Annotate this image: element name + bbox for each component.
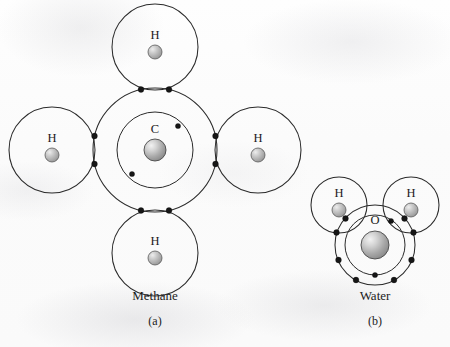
methane-caption-title: Methane — [132, 288, 178, 303]
hydrogen-top-nucleus — [148, 45, 162, 59]
oxygen-bonding-electron-left — [334, 230, 340, 236]
oxygen-inner-electron — [388, 218, 393, 223]
methane-molecule-group: C H H H H — [9, 4, 301, 328]
water-hydrogen-left-nucleus — [332, 203, 346, 217]
water-hydrogen-right-nucleus — [404, 203, 418, 217]
water-caption-title: Water — [360, 288, 391, 303]
oxygen-bonding-electron-right — [402, 216, 408, 222]
molecule-diagram-svg: C H H H H — [0, 0, 450, 347]
hydrogen-left-nucleus — [45, 148, 59, 162]
carbon-inner-electron — [129, 171, 134, 176]
oxygen-lone-pair-electron — [409, 257, 415, 263]
hydrogen-right-label: H — [253, 131, 262, 145]
oxygen-nucleus — [361, 231, 389, 259]
water-hydrogen-left-label: H — [334, 186, 343, 200]
hydrogen-bottom-nucleus — [148, 251, 162, 265]
oxygen-lone-pair-electron — [336, 257, 342, 263]
oxygen-bonding-electron-right — [411, 230, 417, 236]
figure-root: C H H H H — [0, 0, 450, 347]
hydrogen-left-label: H — [47, 131, 56, 145]
hydrogen-top-label: H — [150, 28, 159, 42]
hydrogen-bottom-label: H — [150, 234, 159, 248]
hydrogen-right-nucleus — [251, 148, 265, 162]
carbon-atom-label: C — [151, 122, 159, 136]
oxygen-lone-pair-electron — [353, 277, 359, 283]
oxygen-lone-pair-electron — [391, 277, 397, 283]
oxygen-inner-electron — [372, 272, 377, 277]
oxygen-bonding-electron-left — [343, 216, 349, 222]
water-hydrogen-right-label: H — [406, 186, 415, 200]
oxygen-atom-label: O — [370, 213, 379, 227]
carbon-inner-electron — [175, 123, 180, 128]
carbon-nucleus — [144, 139, 166, 161]
methane-caption-sublabel: (a) — [148, 314, 161, 328]
water-caption-sublabel: (b) — [368, 314, 382, 328]
water-molecule-group: O H H Wa — [311, 177, 439, 328]
